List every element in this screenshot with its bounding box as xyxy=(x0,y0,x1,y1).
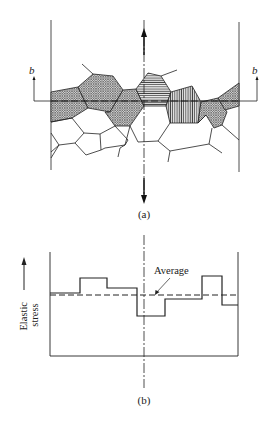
y-axis-label-line1: Elastic xyxy=(18,302,29,331)
y-axis-up-arrow-icon xyxy=(22,257,27,265)
average-pointer-arrow-icon xyxy=(155,290,160,295)
caption-a: (a) xyxy=(138,208,151,221)
figure-b xyxy=(50,235,238,388)
average-pointer xyxy=(156,278,170,293)
tension-arrow-down-icon xyxy=(141,195,147,204)
figure-canvas: b b (a) Average Elastic stress (b) xyxy=(0,0,267,424)
caption-b: (b) xyxy=(138,394,151,407)
y-axis-label-line2: stress xyxy=(29,303,40,326)
section-marker-left: b xyxy=(29,64,35,76)
y-axis-label: Elastic stress xyxy=(18,299,40,330)
section-marker-right-arrow-icon xyxy=(256,76,259,80)
figure-a xyxy=(34,20,257,200)
average-label: Average xyxy=(154,265,189,276)
section-marker-right: b xyxy=(252,64,258,76)
section-marker-left-arrow-icon xyxy=(33,76,36,80)
grain-vlined xyxy=(166,86,201,123)
tension-arrow-up-icon xyxy=(141,28,147,37)
